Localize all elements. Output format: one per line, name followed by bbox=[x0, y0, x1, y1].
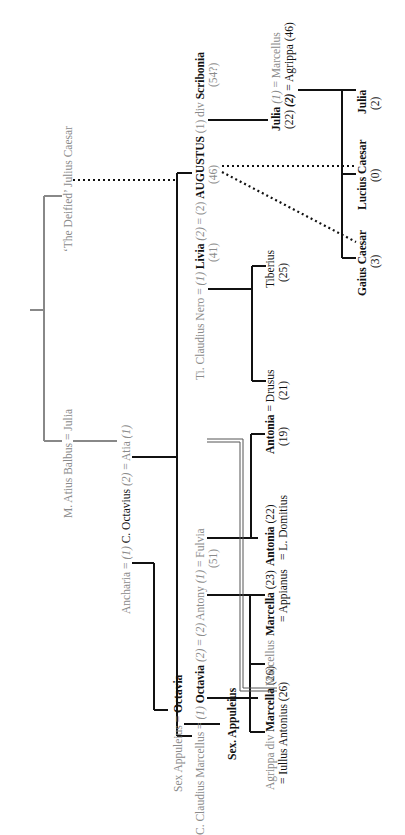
gaius-caesar: Gaius Caesar bbox=[356, 230, 369, 296]
julius-caesar-label: ‘The Deified’ Julius Caesar bbox=[62, 126, 75, 252]
marcella-younger-label: Marcella (23) bbox=[264, 570, 277, 636]
augustus: AUGUSTUS bbox=[194, 136, 206, 199]
tiberius-label: Tiberius bbox=[264, 250, 277, 288]
julia-minor-age: (2) bbox=[369, 97, 382, 110]
scribonia-age: (54?) bbox=[207, 63, 220, 87]
octavia-age: (51) bbox=[207, 549, 220, 568]
antonia-elder-label: Antonia (22) bbox=[264, 504, 277, 566]
drusus-age: (21) bbox=[277, 381, 290, 400]
c-octavius: C. Octavius bbox=[120, 489, 132, 543]
julia-minor: Julia bbox=[356, 90, 369, 114]
marcella-elder-spouse: = Iullus Antonius (26) bbox=[277, 682, 290, 784]
lucius-caesar-age: (0) bbox=[369, 169, 382, 182]
tiberius-age: (25) bbox=[277, 263, 290, 282]
antonia-drusus-label: Antonia = Drusus bbox=[264, 370, 277, 454]
lucius-caesar: Lucius Caesar bbox=[356, 139, 369, 210]
octavia-elder: Octavia bbox=[172, 675, 184, 713]
julia-label: Julia (1) = Marcellus bbox=[270, 32, 283, 131]
livia: Livia bbox=[194, 244, 206, 270]
balbus-julia-label: M. Atius Balbus = Julia bbox=[62, 409, 75, 518]
ancharia: Ancharia bbox=[120, 572, 132, 614]
ancharia-marriage-label: Ancharia = (1) C. Octavius (2) = Atia (1… bbox=[120, 425, 133, 614]
antonia-elder-spouse: = L. Domitius bbox=[277, 495, 290, 560]
gaius-caesar-age: (3) bbox=[369, 255, 382, 268]
antony: Antony bbox=[194, 586, 206, 621]
marcella-younger-spouse: = Appianus bbox=[277, 569, 290, 622]
octavia: Octavia bbox=[194, 665, 206, 703]
augustus-age: (46) bbox=[207, 165, 220, 184]
livia-marriages-label: Ti. Claudius Nero = (1) Livia (2) = (2) … bbox=[194, 52, 207, 380]
scribonia: Scribonia bbox=[194, 52, 206, 99]
fulvia: Fulvia bbox=[194, 528, 206, 557]
sex-appuleius-marriage-label: Sex Appuleius = Octavia bbox=[172, 675, 185, 792]
julia-spouse-2: (22) (2) = Agrippa (46) bbox=[283, 22, 296, 129]
atia: Atia bbox=[120, 441, 132, 461]
antonia-younger-age: (19) bbox=[277, 427, 290, 446]
octavia-marriages-label: C. Claudius Marcellus = (1) Octavia (2) … bbox=[194, 528, 207, 835]
sex-appuleius-son: Sex. Appuleius bbox=[226, 688, 239, 760]
marcellus-label: Marcellus bbox=[264, 640, 277, 686]
livia-age: (41) bbox=[207, 243, 220, 262]
